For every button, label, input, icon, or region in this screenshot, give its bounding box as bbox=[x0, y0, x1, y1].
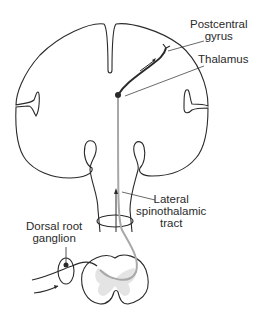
label-dorsal-root-ganglion: Dorsal root ganglion bbox=[26, 220, 82, 244]
label-postcentral-gyrus: Postcentral gyrus bbox=[190, 18, 248, 42]
spinothalamic-pathway-diagram bbox=[0, 0, 269, 320]
cortex-terminal bbox=[163, 44, 170, 48]
brain-left-hemisphere-outline bbox=[16, 24, 104, 232]
projection-arrow-line bbox=[140, 60, 155, 71]
input-arrow bbox=[34, 286, 58, 293]
thalamus-leader bbox=[125, 66, 204, 96]
postcentral-gyrus-leader bbox=[168, 41, 204, 51]
label-lateral-spinothalamic-tract: Lateral spinothalamic tract bbox=[136, 193, 206, 229]
longitudinal-fissure bbox=[104, 24, 116, 73]
brainstem-section bbox=[97, 215, 133, 227]
thalamocortical-fiber bbox=[118, 48, 166, 95]
input-arrowhead bbox=[54, 285, 58, 289]
label-thalamus: Thalamus bbox=[198, 53, 249, 65]
spinothalamic-tract bbox=[100, 98, 137, 280]
ganglion-cell-body bbox=[64, 263, 69, 268]
